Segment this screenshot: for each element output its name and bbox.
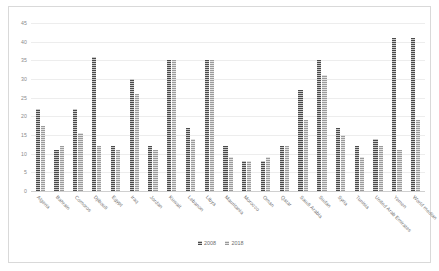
x-tick-label: Oman [261,194,275,208]
bar-group [125,23,144,191]
bar-group [406,23,425,191]
bar-group [106,23,125,191]
bar-group [200,23,219,191]
bar-2008[interactable] [148,146,152,191]
bar-group [275,23,294,191]
bar-2008[interactable] [261,161,265,191]
bar-2008[interactable] [36,109,40,191]
bar-2018[interactable] [304,120,308,191]
x-tick-label: Qatar [280,194,293,207]
bar-2018[interactable] [341,135,345,191]
y-tick-label: 5 [24,169,27,175]
bar-2018[interactable] [210,60,214,191]
bar-group [87,23,106,191]
bar-2008[interactable] [73,109,77,191]
bar-2018[interactable] [266,157,270,191]
gridline [31,191,425,192]
bar-group [219,23,238,191]
y-tick-label: 15 [21,132,27,138]
bar-group [162,23,181,191]
bar-2008[interactable] [355,146,359,191]
legend-label: 2018 [232,240,244,246]
bar-group [50,23,69,191]
bar-2008[interactable] [186,128,190,191]
bar-2018[interactable] [322,75,326,191]
y-tick-label: 0 [24,188,27,194]
bar-2018[interactable] [116,150,120,191]
bar-group [69,23,88,191]
bar-group [350,23,369,191]
x-tick-label: Libya [205,194,218,207]
legend-swatch-icon [198,241,202,245]
legend-item-2018[interactable]: 2018 [225,240,244,246]
bar-group [294,23,313,191]
x-tick-label: Sudan [318,194,333,209]
bar-2008[interactable] [54,150,58,191]
bar-2008[interactable] [280,146,284,191]
bar-2008[interactable] [298,90,302,191]
bar-group [331,23,350,191]
bar-2018[interactable] [247,161,251,191]
plot-area: 051015202530354045 [31,23,425,191]
bar-2018[interactable] [153,150,157,191]
legend-swatch-icon [225,241,229,245]
bar-2008[interactable] [223,146,227,191]
bar-2018[interactable] [41,126,45,191]
y-tick-label: 10 [21,151,27,157]
bar-2018[interactable] [229,157,233,191]
bar-2008[interactable] [92,57,96,191]
x-tick-label: Iraq [130,194,141,205]
bar-series-group [31,23,425,191]
bar-2018[interactable] [379,146,383,191]
y-tick-label: 40 [21,39,27,45]
bar-2018[interactable] [60,146,64,191]
bar-2008[interactable] [373,139,377,191]
bar-group [237,23,256,191]
bar-2008[interactable] [317,60,321,191]
legend-item-2008[interactable]: 2008 [198,240,217,246]
x-tick-label: Egypt [111,194,125,208]
bar-group [181,23,200,191]
chart-legend: 20082018 [9,240,432,246]
bar-2008[interactable] [336,128,340,191]
bar-2008[interactable] [242,161,246,191]
bar-2008[interactable] [111,146,115,191]
x-tick-label: World median [411,194,438,221]
bar-2018[interactable] [97,146,101,191]
bar-2018[interactable] [285,146,289,191]
bar-group [31,23,50,191]
x-tick-label: Syria [336,194,349,207]
bar-2018[interactable] [172,60,176,191]
legend-label: 2008 [204,240,216,246]
bar-group [388,23,407,191]
y-tick-label: 20 [21,113,27,119]
y-tick-label: 30 [21,76,27,82]
y-tick-label: 35 [21,57,27,63]
bar-2018[interactable] [416,120,420,191]
y-tick-label: 25 [21,95,27,101]
chart-container: 051015202530354045 AlgeriaBahrainComoros… [8,6,431,263]
y-tick-label: 45 [21,20,27,26]
bar-2018[interactable] [397,150,401,191]
bar-2018[interactable] [78,133,82,191]
bar-2008[interactable] [205,60,209,191]
bar-2008[interactable] [411,38,415,191]
bar-group [144,23,163,191]
bar-group [256,23,275,191]
bar-2018[interactable] [360,157,364,191]
bar-2008[interactable] [167,60,171,191]
bar-2008[interactable] [130,79,134,191]
bar-2018[interactable] [191,139,195,191]
bar-group [369,23,388,191]
bar-2018[interactable] [135,94,139,191]
bar-2008[interactable] [392,38,396,191]
bar-group [312,23,331,191]
